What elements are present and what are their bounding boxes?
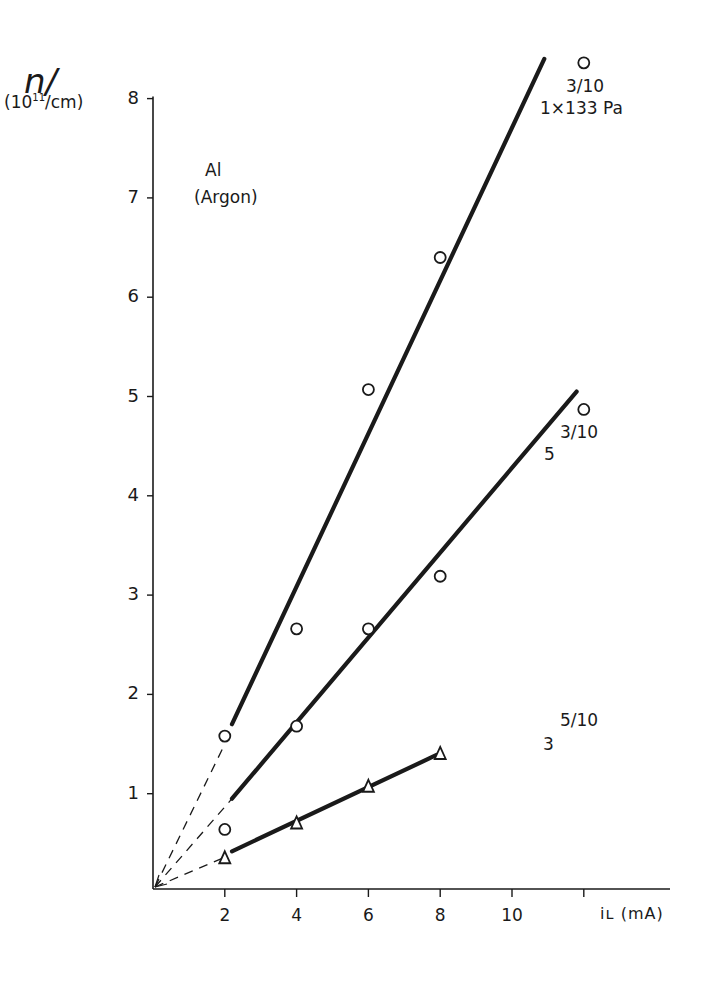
axes <box>147 97 670 897</box>
x-tick-label: 4 <box>282 907 312 924</box>
circle-marker-icon <box>291 623 302 634</box>
series-2-pressure-label: 5 <box>544 446 555 463</box>
circle-marker-icon <box>363 384 374 395</box>
fit-line-series-3 <box>232 755 437 851</box>
y-tick-label: 8 <box>119 89 139 107</box>
y-tick-label: 6 <box>119 287 139 305</box>
x-tick-label: 2 <box>210 907 240 924</box>
y-tick-label: 3 <box>119 585 139 603</box>
x-tick-label: 10 <box>497 907 527 924</box>
extrapolation-dashed-line <box>155 857 225 887</box>
series-1-pressure-label: 1×133 Pa <box>540 100 623 117</box>
series-3-pressure-label: 3 <box>543 736 554 753</box>
circle-marker-icon <box>219 731 230 742</box>
plot-area <box>0 0 713 981</box>
circle-marker-icon <box>578 57 589 68</box>
circle-marker-icon <box>363 623 374 634</box>
data-markers <box>219 57 589 863</box>
circle-marker-icon <box>435 252 446 263</box>
triangle-marker-icon <box>219 851 230 863</box>
series-3-ratio-label: 5/10 <box>560 712 598 729</box>
gas-label: (Argon) <box>194 189 258 206</box>
y-tick-label: 4 <box>119 486 139 504</box>
circle-marker-icon <box>578 404 589 415</box>
circle-marker-icon <box>435 571 446 582</box>
y-axis-unit: (1011/cm) <box>4 93 83 111</box>
y-tick-label: 1 <box>119 784 139 802</box>
circle-marker-icon <box>219 824 230 835</box>
fit-line-series-2 <box>232 392 577 799</box>
extrapolation-dashed-line <box>155 799 232 887</box>
x-tick-label: 6 <box>353 907 383 924</box>
series-2-ratio-label: 3/10 <box>560 424 598 441</box>
circle-marker-icon <box>291 721 302 732</box>
fit-lines <box>155 59 577 887</box>
x-axis-label: iʟ (mA) <box>600 906 664 922</box>
y-tick-label: 7 <box>119 188 139 206</box>
fit-line-series-1 <box>232 59 544 724</box>
series-1-ratio-label: 3/10 <box>566 78 604 95</box>
x-tick-label: 8 <box>425 907 455 924</box>
y-tick-label: 2 <box>119 684 139 702</box>
extrapolation-dashed-line <box>155 744 225 887</box>
material-label: Al <box>205 162 221 179</box>
y-tick-label: 5 <box>119 387 139 405</box>
